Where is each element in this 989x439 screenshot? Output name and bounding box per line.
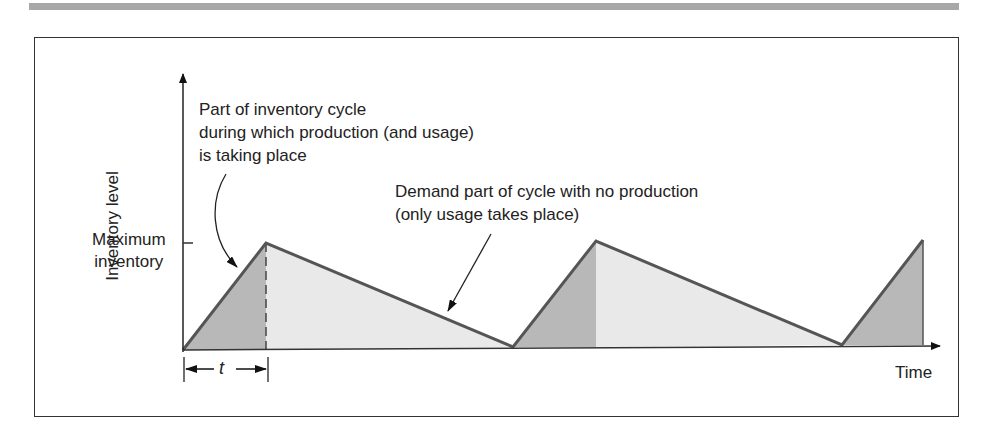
production-annotation-line-1: Part of inventory cycle xyxy=(199,98,474,121)
time-interval-label: t xyxy=(219,357,224,380)
x-axis-label: Time xyxy=(895,361,932,384)
demand-annotation: Demand part of cycle with no production … xyxy=(395,180,698,226)
y-axis-label: Inventory level xyxy=(103,151,123,301)
max-inventory-label-line-2: inventory xyxy=(92,251,166,273)
max-inventory-label: Maximum inventory xyxy=(92,229,166,273)
max-inventory-label-line-1: Maximum xyxy=(92,229,166,251)
production-annotation: Part of inventory cycle during which pro… xyxy=(199,98,474,167)
production-annotation-line-2: during which production (and usage) xyxy=(199,121,474,144)
cycle-1 xyxy=(183,243,513,350)
cycle-2 xyxy=(513,241,842,347)
time-interval-bracket xyxy=(184,357,268,382)
demand-annotation-line-1: Demand part of cycle with no production xyxy=(395,180,698,203)
demand-annotation-line-2: (only usage takes place) xyxy=(395,203,698,226)
demand-callout-arrow xyxy=(448,234,491,311)
production-callout-arrow xyxy=(215,174,237,267)
production-annotation-line-3: is taking place xyxy=(199,144,474,167)
